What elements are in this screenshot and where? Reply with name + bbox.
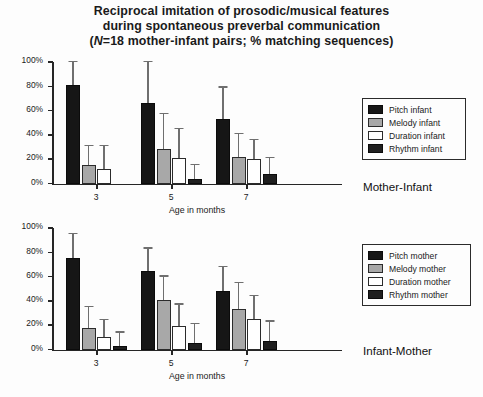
title-sample-size-symbol: N <box>94 34 103 48</box>
error-bar-cap-melody-3 <box>84 306 93 307</box>
error-bar-melody-3 <box>88 146 89 165</box>
y-axis-tick-label: 60% <box>26 104 43 114</box>
legend-swatch-duration-icon <box>368 131 383 140</box>
bar-duration-5 <box>172 158 186 184</box>
y-axis-tick: 80% <box>48 252 53 254</box>
bar-duration-5 <box>172 326 186 349</box>
error-bar-rhythm-3 <box>119 333 120 346</box>
legend-swatch-pitch-icon <box>368 105 383 114</box>
y-axis-tick: 0% <box>48 183 53 185</box>
error-bar-cap-melody-7 <box>234 133 243 134</box>
bar-duration-7 <box>247 319 261 349</box>
y-axis-tick-label: 0% <box>31 343 43 353</box>
x-axis-tick <box>171 185 173 189</box>
bar-pitch-3 <box>66 85 80 183</box>
bar-melody-5 <box>157 149 171 183</box>
bar-rhythm-3 <box>113 346 127 350</box>
bar-rhythm-7 <box>263 174 277 184</box>
error-bar-cap-duration-5 <box>175 128 184 129</box>
y-axis-tick-label: 60% <box>26 270 43 280</box>
error-bar-cap-duration-7 <box>250 295 259 296</box>
error-bar-rhythm-7 <box>269 322 270 341</box>
legend-item: Melody mother <box>368 262 463 275</box>
legend-item: Pitch infant <box>368 103 458 116</box>
error-bar-duration-3 <box>103 146 104 169</box>
error-bar-cap-pitch-5 <box>144 61 153 62</box>
x-axis-tick <box>171 351 173 355</box>
error-bar-cap-melody-5 <box>159 113 168 114</box>
error-bar-cap-rhythm-3 <box>115 331 124 332</box>
bar-pitch-5 <box>141 271 155 350</box>
y-axis-tick-label: 100% <box>22 221 43 231</box>
panel-mother-infant: 0%20%40%60%80%100%357 Age in months Pitc… <box>0 58 483 223</box>
error-bar-rhythm-5 <box>194 324 195 343</box>
x-axis-title-top: Age in months <box>52 205 342 215</box>
error-bar-cap-pitch-7 <box>219 86 228 87</box>
bar-melody-7 <box>232 309 246 349</box>
legend-item: Rhythm mother <box>368 288 463 301</box>
error-bar-pitch-5 <box>147 249 148 271</box>
y-axis-tick-label: 0% <box>31 177 43 187</box>
y-axis-tick: 20% <box>48 158 53 160</box>
x-axis-tick <box>246 185 248 189</box>
legend-item: Rhythm infant <box>368 142 458 155</box>
bar-melody-7 <box>232 157 246 184</box>
y-axis-tick-label: 100% <box>22 55 43 65</box>
y-axis-tick-label: 80% <box>26 80 43 90</box>
error-bar-cap-duration-7 <box>250 139 259 140</box>
error-bar-cap-duration-3 <box>100 319 109 320</box>
title-line-1: Reciprocal imitation of prosodic/musical… <box>0 4 483 19</box>
error-bar-pitch-3 <box>72 62 73 85</box>
y-axis-tick: 80% <box>48 86 53 88</box>
y-axis-tick: 100% <box>48 61 53 63</box>
x-axis-category-label: 5 <box>169 192 174 202</box>
figure-title: Reciprocal imitation of prosodic/musical… <box>0 4 483 49</box>
error-bar-duration-3 <box>103 320 104 337</box>
error-bar-pitch-7 <box>222 88 223 120</box>
figure-root: Reciprocal imitation of prosodic/musical… <box>0 0 483 397</box>
legend-swatch-melody-icon <box>368 264 383 273</box>
bar-melody-3 <box>82 328 96 350</box>
x-axis-tick <box>96 351 98 355</box>
bar-pitch-5 <box>141 103 155 183</box>
plot-area-mother-infant: 0%20%40%60%80%100%357 <box>52 62 342 185</box>
x-axis-category-label: 7 <box>244 358 249 368</box>
error-bar-cap-pitch-3 <box>69 61 78 62</box>
error-bar-cap-pitch-7 <box>219 266 228 267</box>
bar-duration-3 <box>97 169 111 184</box>
legend-item: Pitch mother <box>368 249 463 262</box>
x-axis-category-label: 3 <box>94 358 99 368</box>
title-line-3: (N=18 mother-infant pairs; % matching se… <box>0 34 483 49</box>
bar-duration-3 <box>97 337 111 349</box>
y-axis-line <box>52 228 54 351</box>
bar-pitch-7 <box>216 119 230 183</box>
error-bar-duration-7 <box>253 296 254 319</box>
x-axis-category-label: 7 <box>244 192 249 202</box>
error-bar-duration-5 <box>178 129 179 158</box>
error-bar-melody-7 <box>238 134 239 157</box>
bar-duration-7 <box>247 159 261 183</box>
error-bar-cap-melody-7 <box>234 282 243 283</box>
error-bar-rhythm-5 <box>194 165 195 178</box>
error-bar-cap-melody-5 <box>159 275 168 276</box>
error-bar-melody-7 <box>238 283 239 310</box>
x-axis-tick <box>246 351 248 355</box>
y-axis-tick-label: 20% <box>26 318 43 328</box>
y-axis-tick: 40% <box>48 134 53 136</box>
error-bar-cap-duration-3 <box>100 145 109 146</box>
error-bar-cap-rhythm-7 <box>265 320 274 321</box>
panel-caption-mother-infant: Mother-Infant <box>363 180 432 193</box>
legend-item: Melody infant <box>368 116 458 129</box>
error-bar-cap-rhythm-7 <box>265 157 274 158</box>
y-axis-tick: 60% <box>48 276 53 278</box>
title-line-2: during spontaneous preverbal communicati… <box>0 19 483 34</box>
y-axis-tick-label: 20% <box>26 152 43 162</box>
legend-label-pitch: Pitch infant <box>389 105 432 115</box>
error-bar-cap-duration-5 <box>175 303 184 304</box>
error-bar-pitch-5 <box>147 62 148 103</box>
legend-swatch-pitch-icon <box>368 251 383 260</box>
error-bar-melody-5 <box>163 114 164 149</box>
error-bar-rhythm-7 <box>269 158 270 174</box>
bar-rhythm-5 <box>188 179 202 184</box>
x-axis-category-label: 3 <box>94 192 99 202</box>
